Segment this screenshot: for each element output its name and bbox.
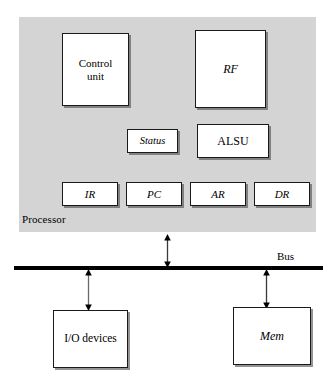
bus-caption: Bus xyxy=(277,250,294,262)
block-ar[interactable]: AR xyxy=(190,182,246,206)
connector-io-bus-arrow xyxy=(84,269,93,311)
processor-caption: Processor xyxy=(22,213,66,225)
block-rf[interactable]: RF xyxy=(195,30,266,108)
block-pc[interactable]: PC xyxy=(126,182,182,206)
block-dr-label: DR xyxy=(275,188,290,201)
block-rf-label: RF xyxy=(223,62,238,76)
block-control-unit[interactable]: Control unit xyxy=(62,33,129,106)
block-pc-label: PC xyxy=(147,188,161,201)
block-alsu-label: ALSU xyxy=(217,134,248,148)
block-io-devices-label: I/O devices xyxy=(64,332,117,346)
bus-line xyxy=(14,266,323,270)
connector-processor-bus-arrow xyxy=(163,234,172,268)
block-ar-label: AR xyxy=(211,188,224,201)
architecture-diagram: Control unit RF Status ALSU IR PC AR DR … xyxy=(0,0,334,378)
block-alsu[interactable]: ALSU xyxy=(197,124,269,158)
block-mem[interactable]: Mem xyxy=(233,307,311,365)
block-mem-label: Mem xyxy=(260,329,284,343)
block-dr[interactable]: DR xyxy=(254,182,310,206)
block-ir[interactable]: IR xyxy=(62,182,118,206)
block-status[interactable]: Status xyxy=(127,129,178,153)
block-control-unit-label: Control unit xyxy=(79,57,113,83)
block-status-label: Status xyxy=(140,135,166,147)
block-io-devices[interactable]: I/O devices xyxy=(53,310,128,368)
connector-mem-bus-arrow xyxy=(262,269,271,309)
block-ir-label: IR xyxy=(85,188,95,201)
